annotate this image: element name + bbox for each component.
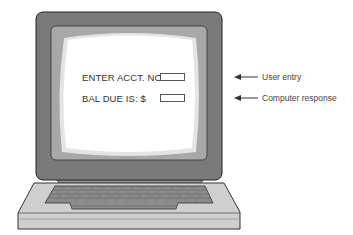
- account-prompt-label: ENTER ACCT. NO:: [82, 72, 165, 83]
- computer-illustration: [0, 0, 353, 235]
- balance-due-field: [160, 94, 185, 102]
- left-arrow-icon: [234, 95, 258, 101]
- balance-due-label: BAL DUE IS: $: [82, 93, 146, 104]
- user-entry-label: User entry: [262, 72, 301, 82]
- left-arrow-icon: [234, 74, 258, 80]
- computer-response-label: Computer response: [262, 93, 337, 103]
- account-number-field[interactable]: [160, 73, 185, 81]
